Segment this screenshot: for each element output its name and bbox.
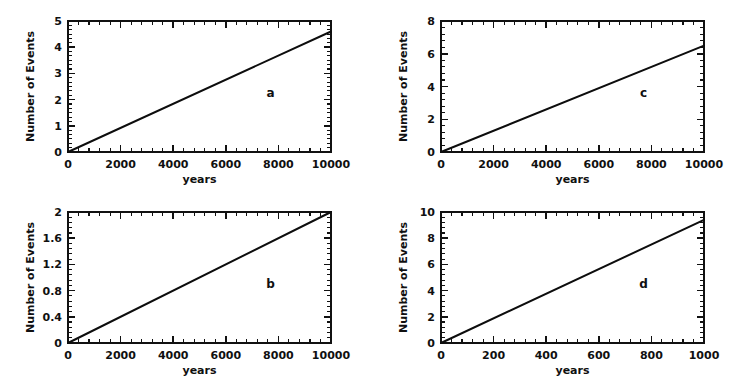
- x-tick-label: 10000: [312, 158, 351, 171]
- y-tick-label: 3: [54, 67, 62, 80]
- y-tick-label: 2: [427, 113, 435, 126]
- y-tick-label: 0: [427, 146, 435, 159]
- plot-frame-d: [441, 212, 704, 343]
- x-tick-label: 6000: [210, 158, 241, 171]
- x-tick-label: 10000: [685, 158, 724, 171]
- x-tick-label: 600: [587, 349, 610, 362]
- panel-label-c: c: [640, 86, 647, 100]
- y-tick-label: 8: [427, 15, 435, 28]
- x-tick-label: 4000: [158, 158, 189, 171]
- data-series-line-d: [441, 220, 704, 343]
- x-axis-title: years: [182, 173, 216, 186]
- panel-label-b: b: [266, 277, 275, 291]
- y-tick-label: 0: [54, 337, 62, 350]
- y-tick-label: 1.6: [43, 232, 63, 245]
- y-tick-label: 1: [54, 120, 62, 133]
- x-tick-label: 6000: [583, 158, 614, 171]
- chart-panel-c: 020004000600080001000002468yearsNumber o…: [373, 0, 746, 191]
- x-tick-label: 400: [535, 349, 558, 362]
- plot-frame-c: [441, 21, 704, 152]
- y-axis-title: Number of Events: [24, 31, 37, 142]
- chart-panel-b: 020004000600080001000000.40.81.21.62year…: [0, 191, 373, 382]
- x-axis-title: years: [555, 364, 589, 377]
- y-tick-label: 4: [427, 285, 435, 298]
- panel-label-d: d: [639, 277, 648, 291]
- y-tick-label: 6: [427, 48, 435, 61]
- y-axis-title: Number of Events: [397, 222, 410, 333]
- x-tick-label: 800: [640, 349, 663, 362]
- y-tick-label: 2: [54, 206, 62, 219]
- x-tick-label: 2000: [105, 158, 136, 171]
- y-tick-label: 0.4: [43, 311, 63, 324]
- four-panel-line-chart-figure: 0200040006000800010000012345yearsNumber …: [0, 0, 746, 382]
- y-tick-label: 10: [420, 206, 436, 219]
- x-tick-label: 8000: [636, 158, 667, 171]
- x-tick-label: 8000: [263, 158, 294, 171]
- x-tick-label: 0: [437, 349, 445, 362]
- y-tick-label: 0: [427, 337, 435, 350]
- y-tick-label: 0.8: [43, 285, 63, 298]
- x-tick-label: 4000: [158, 349, 189, 362]
- y-tick-label: 6: [427, 258, 435, 271]
- y-tick-label: 4: [54, 41, 62, 54]
- x-tick-label: 10000: [312, 349, 351, 362]
- y-axis-title: Number of Events: [397, 31, 410, 142]
- y-tick-label: 8: [427, 232, 435, 245]
- x-tick-label: 2000: [478, 158, 509, 171]
- x-tick-label: 8000: [263, 349, 294, 362]
- y-tick-label: 0: [54, 146, 62, 159]
- chart-panel-a: 0200040006000800010000012345yearsNumber …: [0, 0, 373, 191]
- y-tick-label: 5: [54, 15, 62, 28]
- data-series-line-c: [441, 46, 704, 152]
- y-tick-label: 2: [54, 94, 62, 107]
- panel-label-a: a: [266, 86, 274, 100]
- y-tick-label: 2: [427, 311, 435, 324]
- chart-panel-d: 020040060080010000246810yearsNumber of E…: [373, 191, 746, 382]
- y-tick-label: 4: [427, 81, 435, 94]
- x-axis-title: years: [182, 364, 216, 377]
- x-axis-title: years: [555, 173, 589, 186]
- x-tick-label: 6000: [210, 349, 241, 362]
- x-tick-label: 0: [437, 158, 445, 171]
- x-tick-label: 2000: [105, 349, 136, 362]
- data-series-line-b: [68, 212, 331, 343]
- x-tick-label: 200: [482, 349, 505, 362]
- x-tick-label: 0: [64, 158, 72, 171]
- x-tick-label: 4000: [531, 158, 562, 171]
- plot-frame-a: [68, 21, 331, 152]
- y-tick-label: 1.2: [43, 258, 63, 271]
- data-series-line-a: [68, 31, 331, 152]
- y-axis-title: Number of Events: [24, 222, 37, 333]
- x-tick-label: 1000: [689, 349, 720, 362]
- x-tick-label: 0: [64, 349, 72, 362]
